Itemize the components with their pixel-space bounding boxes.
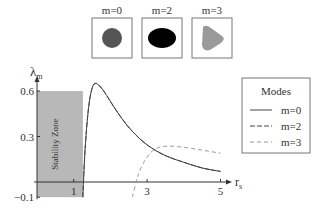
y-ticks: 0.60.3−0.1 — [14, 85, 40, 203]
x-axis-arrow — [226, 180, 232, 185]
series-line-m=2 — [83, 83, 221, 197]
legend: Modes m=0m=2m=3 — [242, 78, 310, 153]
y-tick-label: 0.6 — [20, 85, 34, 97]
legend-label: m=3 — [281, 136, 302, 148]
mode-shape — [148, 28, 176, 48]
y-tick-label: −0.1 — [14, 191, 34, 203]
inset-label: m=0 — [102, 4, 123, 16]
inset-label: m=2 — [152, 4, 172, 16]
legend-title: Modes — [261, 85, 291, 97]
series-lines — [83, 83, 221, 197]
mode-shape — [102, 28, 122, 48]
x-axis-label: rs — [235, 175, 242, 191]
y-axis-label: λm — [30, 64, 43, 81]
series-line-m=0 — [83, 83, 221, 197]
inset-m=2: m=2 — [142, 4, 182, 58]
stability-zone-label: Stability Zone — [50, 118, 60, 169]
chart: m=0m=2m=3 Stability Zone 135 0.60.3−0.1 … — [0, 0, 316, 209]
legend-label: m=0 — [281, 104, 302, 116]
inset-label: m=3 — [202, 4, 223, 16]
x-tick-label: 1 — [71, 185, 77, 197]
x-tick-label: 3 — [144, 185, 150, 197]
mode-insets: m=0m=2m=3 — [92, 4, 232, 58]
inset-m=0: m=0 — [92, 4, 132, 58]
y-tick-label: 0.3 — [20, 131, 34, 143]
x-tick-label: 5 — [218, 185, 224, 197]
inset-m=3: m=3 — [192, 4, 232, 58]
legend-label: m=2 — [281, 120, 301, 132]
